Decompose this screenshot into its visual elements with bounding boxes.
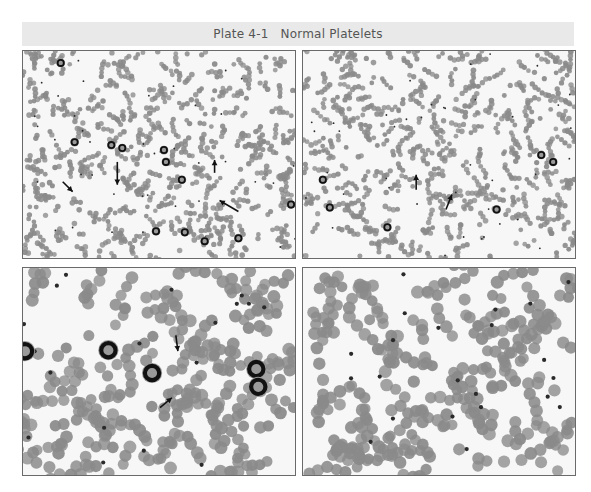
red-blood-cell [406, 429, 417, 440]
red-blood-cell [233, 447, 244, 458]
white-blood-cell [180, 228, 189, 237]
red-blood-cell [102, 171, 107, 176]
red-blood-cell [203, 112, 208, 117]
red-blood-cell [177, 248, 183, 254]
red-blood-cell [27, 212, 32, 217]
platelet [294, 238, 295, 240]
white-blood-cell [162, 158, 171, 167]
red-blood-cell [479, 124, 484, 129]
red-blood-cell [399, 243, 404, 248]
red-blood-cell [45, 67, 50, 72]
micrograph-top-right [302, 50, 576, 259]
red-blood-cell [93, 275, 105, 287]
red-blood-cell [348, 64, 353, 69]
platelet [213, 321, 217, 325]
red-blood-cell [199, 228, 205, 234]
white-blood-cell [383, 223, 392, 232]
platelet [333, 122, 335, 124]
red-blood-cell [523, 129, 528, 134]
red-blood-cell [343, 64, 348, 69]
platelet [539, 247, 541, 249]
red-blood-cell [441, 118, 446, 123]
red-blood-cell [277, 106, 283, 112]
red-blood-cell [130, 92, 135, 97]
platelet [326, 172, 328, 174]
red-blood-cell [477, 222, 482, 227]
platelet [385, 177, 387, 179]
pointer-arrow-icon [114, 162, 120, 185]
red-blood-cell [211, 268, 222, 279]
red-blood-cell [425, 161, 430, 166]
platelet [343, 193, 345, 195]
red-blood-cell [25, 164, 30, 169]
white-blood-cell [23, 341, 35, 361]
platelet [198, 162, 200, 164]
red-blood-cell [387, 218, 392, 223]
red-blood-cell [209, 139, 214, 144]
platelet [512, 116, 514, 118]
red-blood-cell [328, 138, 333, 143]
red-blood-cell [256, 232, 261, 237]
red-blood-cell [206, 70, 211, 75]
red-blood-cell [425, 179, 430, 184]
red-blood-cell [118, 132, 123, 137]
red-blood-cell [57, 226, 63, 232]
platelet [195, 361, 199, 365]
red-blood-cell [27, 204, 32, 209]
red-blood-cell [211, 205, 217, 211]
white-blood-cell [248, 377, 268, 397]
red-blood-cell [126, 183, 132, 189]
platelet [499, 223, 501, 225]
red-blood-cell [516, 197, 521, 202]
red-blood-cell [171, 196, 176, 201]
red-blood-cell [350, 181, 355, 186]
platelet [200, 463, 204, 467]
platelet [305, 197, 307, 199]
red-blood-cell [50, 420, 61, 431]
red-blood-cell [526, 68, 531, 73]
red-blood-cell [195, 370, 207, 382]
red-blood-cell [137, 127, 143, 133]
red-blood-cell [102, 155, 107, 160]
red-blood-cell [470, 98, 475, 103]
red-blood-cell [563, 119, 568, 124]
red-blood-cell [185, 51, 190, 56]
red-blood-cell [169, 69, 174, 74]
red-blood-cell [192, 165, 197, 170]
red-blood-cell [563, 292, 574, 303]
red-blood-cell [390, 149, 395, 154]
red-blood-cell [514, 185, 519, 190]
platelet [416, 203, 418, 205]
red-blood-cell [390, 384, 401, 395]
red-blood-cell [134, 161, 139, 166]
red-blood-cell [80, 247, 85, 252]
red-blood-cell [495, 130, 500, 135]
red-blood-cell [321, 148, 326, 153]
red-blood-cell [243, 190, 248, 195]
red-blood-cell [568, 61, 573, 66]
red-blood-cell [23, 242, 28, 247]
platelet [74, 115, 76, 117]
red-blood-cell [418, 244, 423, 249]
white-blood-cell [492, 205, 501, 214]
red-blood-cell [164, 462, 177, 475]
red-blood-cell [321, 101, 326, 106]
red-blood-cell [535, 53, 540, 58]
platelet [332, 227, 334, 229]
red-blood-cell [555, 86, 560, 91]
red-blood-cell [527, 268, 539, 276]
red-blood-cell [417, 404, 428, 415]
red-blood-cell [271, 299, 284, 312]
red-blood-cell [407, 73, 412, 78]
red-blood-cell [384, 138, 389, 143]
red-blood-cell [259, 279, 270, 290]
red-blood-cell [507, 318, 519, 330]
red-blood-cell [322, 97, 327, 102]
red-blood-cell [397, 117, 402, 122]
red-blood-cell [355, 115, 360, 120]
red-blood-cell [572, 231, 575, 236]
red-blood-cell [209, 232, 214, 237]
red-blood-cell [59, 53, 64, 58]
red-blood-cell [281, 194, 286, 199]
red-blood-cell [493, 126, 498, 131]
